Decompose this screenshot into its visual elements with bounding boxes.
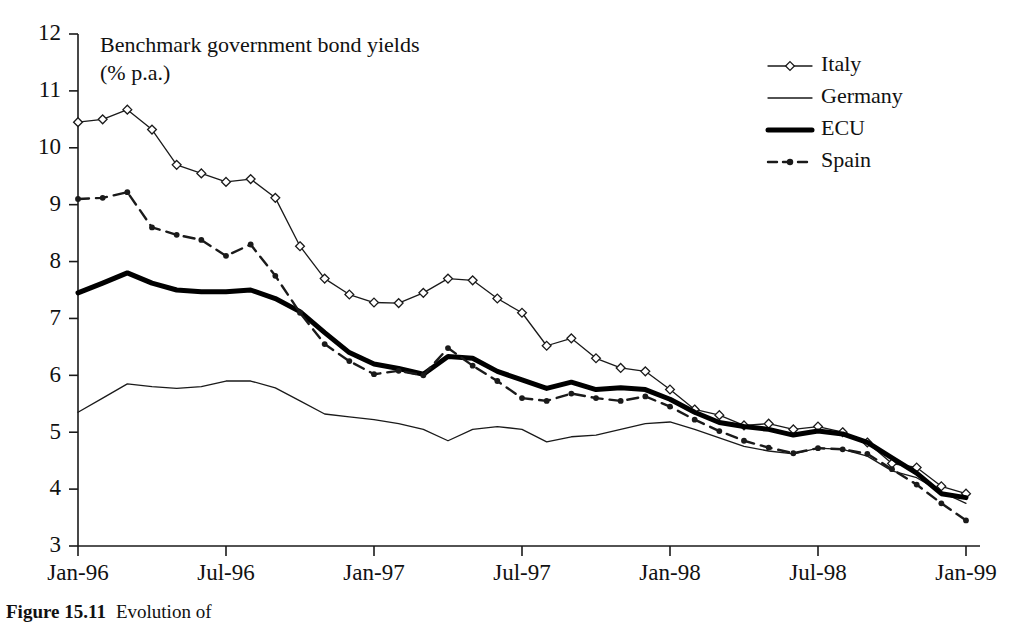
figure-caption: Figure 15.11Evolution of [6,601,212,622]
legend-label-germany: Germany [821,83,903,108]
series-spain [75,189,969,523]
data-point-marker [297,310,303,316]
y-axis-tick-label: 9 [50,191,62,216]
data-point-marker [322,341,328,347]
legend-label-ecu: ECU [821,115,865,140]
caption-group: Figure 15.11Evolution of [6,601,212,622]
data-point-marker [445,345,451,351]
data-point-marker [470,363,476,369]
x-axis-tick-label: Jan-99 [935,560,996,585]
series-line-spain [78,192,966,520]
bond-yields-line-chart: 3456789101112Jan-96Jul-96Jan-97Jul-97Jan… [0,0,1014,622]
y-axis-tick-label: 11 [39,77,61,102]
y-axis-tick-label: 10 [38,134,61,159]
legend-label-italy: Italy [821,51,861,76]
legend-item-germany[interactable]: Germany [768,83,903,108]
data-point-marker [468,276,477,285]
data-point-marker [172,160,181,169]
legend-item-italy[interactable]: Italy [768,51,861,76]
data-point-marker [371,371,377,377]
data-point-marker [790,450,796,456]
axes-group [69,34,980,556]
data-point-marker [593,395,599,401]
data-point-marker [345,290,354,299]
data-point-marker [396,368,402,374]
data-point-marker [963,518,969,524]
series-line-ecu [78,273,966,498]
x-axis-tick-label: Jul-97 [493,560,551,585]
data-point-marker [815,445,821,451]
x-axis-tick-label: Jan-98 [639,560,700,585]
data-point-marker [692,417,698,423]
data-point-marker [98,115,107,124]
y-axis-tick-label: 4 [50,475,62,500]
data-point-marker [444,274,453,283]
data-point-marker [618,398,624,404]
y-axis-tick-label: 5 [50,419,62,444]
data-point-marker [197,169,206,178]
x-axis-tick-label: Jul-98 [789,560,847,585]
data-point-marker [715,411,724,420]
data-point-marker [544,398,550,404]
data-point-marker [272,273,278,279]
data-point-marker [420,372,426,378]
data-point-marker [370,298,379,307]
data-point-marker [840,446,846,452]
x-axis-tick-label: Jul-96 [197,560,255,585]
data-point-marker [174,232,180,238]
data-point-marker [248,242,254,248]
x-axis-tick-label: Jan-96 [47,560,108,585]
data-point-marker [667,404,673,410]
data-point-marker [889,466,895,472]
y-axis-tick-label: 3 [50,532,62,557]
data-point-marker [149,225,155,231]
x-axis-tick-label: Jan-97 [343,560,404,585]
y-axis-tick-label: 8 [50,248,62,273]
data-point-marker [938,500,944,506]
legend-item-ecu[interactable]: ECU [768,115,865,140]
data-point-marker [346,358,352,364]
data-point-marker [222,178,231,187]
data-point-marker [494,378,500,384]
data-point-marker [419,288,428,297]
data-point-marker [519,395,525,401]
legend-group: ItalyGermanyECUSpain [768,51,903,172]
series-ecu [78,273,966,498]
chart-subtitle: (% p.a.) [100,60,170,85]
y-axis-tick-label: 12 [38,20,61,45]
figure-caption-number: Figure 15.11 [6,601,106,622]
data-point-marker [124,189,130,195]
data-point-marker [616,364,625,373]
y-axis-tick-label: 7 [50,305,62,330]
data-point-marker [198,237,204,243]
legend-label-spain: Spain [821,147,871,172]
legend-marker-dot-icon [787,159,793,165]
legend-item-spain[interactable]: Spain [768,147,871,172]
data-point-marker [741,438,747,444]
data-point-marker [568,391,574,397]
figure-caption-text: Evolution of [116,601,212,622]
data-point-marker [716,428,722,434]
y-axis-tick-label: 6 [50,362,62,387]
data-point-marker [642,393,648,399]
data-point-marker [864,451,870,457]
figure-root: 3456789101112Jan-96Jul-96Jan-97Jul-97Jan… [0,0,1014,622]
data-point-marker [74,118,83,127]
data-point-marker [75,196,81,202]
chart-title: Benchmark government bond yields [100,32,420,57]
data-point-marker [766,445,772,451]
data-point-marker [394,299,403,308]
data-point-marker [914,482,920,488]
legend-marker-open-diamond-icon [786,62,795,71]
data-point-marker [100,195,106,201]
data-point-marker [223,253,229,259]
